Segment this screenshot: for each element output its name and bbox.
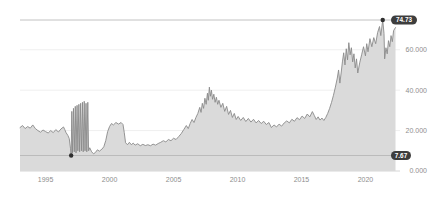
- y-tick-label: 40.000: [406, 87, 428, 94]
- x-tick-label: 1995: [38, 176, 54, 183]
- min-marker-dot: [69, 153, 73, 157]
- x-tick-label: 2020: [358, 176, 374, 183]
- x-tick-label: 2015: [294, 176, 310, 183]
- y-tick-label: 0.000: [409, 167, 427, 174]
- x-tick-label: 2010: [230, 176, 246, 183]
- price-chart-panel: 74.737.670.00020.00040.00060.00019952000…: [0, 0, 436, 197]
- max-value-badge-label: 74.73: [396, 16, 412, 23]
- price-chart-canvas[interactable]: 74.737.670.00020.00040.00060.00019952000…: [0, 0, 436, 197]
- y-tick-label: 60.000: [406, 46, 428, 53]
- max-marker-dot: [381, 18, 385, 22]
- y-tick-label: 20.000: [406, 127, 428, 134]
- x-tick-label: 2000: [102, 176, 118, 183]
- min-value-badge-label: 7.67: [395, 152, 408, 159]
- x-tick-label: 2005: [166, 176, 182, 183]
